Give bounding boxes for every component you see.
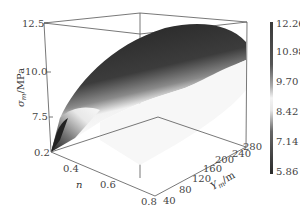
colorbar-gradient [270,22,273,174]
y-tick: 40 [163,195,176,206]
surface-plot: 12.5 10.0 7.5 σm/MPa 0.2 0.4 0.6 0.8 n 4… [0,0,300,214]
x-tick: 0.6 [100,179,116,190]
z-tick: 7.5 [32,111,48,122]
y-tick: 80 [179,184,192,195]
colorbar-tick: 10.98 [276,46,300,57]
colorbar-tick: 12.26 [276,18,300,29]
z-tick: 12.5 [22,18,44,29]
x-tick: 0.8 [141,196,157,207]
x-tick: 0.2 [34,147,50,158]
colorbar: 12.26 10.98 9.70 8.42 7.14 5.86 [270,18,300,177]
colorbar-tick: 8.42 [276,106,298,117]
x-tick: 0.4 [63,163,79,174]
x-axis-label: n [76,179,82,190]
y-tick: 280 [243,141,262,152]
colorbar-tick: 7.14 [276,136,298,147]
z-tick: 10.0 [25,66,47,77]
surface [51,24,246,165]
y-axis-ticks: 40 80 120 160 200 240 280 Ym/m [163,141,262,206]
colorbar-tick: 9.70 [276,76,298,87]
colorbar-tick: 5.86 [276,166,298,177]
